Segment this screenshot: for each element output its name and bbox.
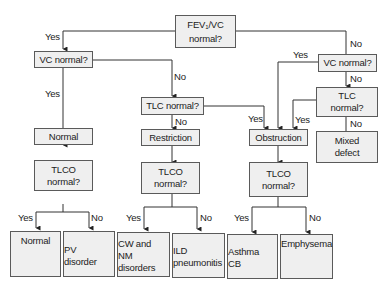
obstruction-node: Obstruction [249,129,308,146]
edge-label-yes: Yes [234,213,249,223]
edge-label-yes: Yes [248,114,263,124]
edge-label-no: No [175,117,187,127]
tlc-normal-right-decision: TLC normal? [316,87,378,117]
outcome-cw-nm-disorders: CW and NM disorders [117,232,170,277]
edge-label-no: No [91,213,103,223]
edge-label-no: No [200,213,212,223]
outcome-pv-disorder: PV disorder [63,231,115,277]
outcome-normal: Normal [10,231,61,277]
fev1-vc-decision: FEV1/VC normal? [175,15,236,48]
vc-normal-right-decision: VC normal? [318,54,377,72]
vc-normal-left-decision: VC normal? [34,51,93,68]
edge-label-no: No [350,39,362,49]
edge-label-yes: Yes [45,89,60,99]
tlc-normal-mid-decision: TLC normal? [141,97,204,115]
edge-label-no: No [309,213,321,223]
restriction-node: Restriction [141,129,200,146]
edge-label-no: No [174,72,186,82]
tlco-normal-decision-2: TLCO normal? [141,162,200,194]
tlco-normal-decision-1: TLCO normal? [34,160,93,191]
edge-label-yes: Yes [295,115,310,125]
edge-label-yes: Yes [18,213,33,223]
edge-label-no: No [350,119,362,129]
edge-label-no: No [350,74,362,84]
edge-label-yes: Yes [126,213,141,223]
normal-node: Normal [34,128,93,145]
outcome-emphysema: Emphysema [280,234,333,279]
edge-label-yes: Yes [293,50,308,60]
edge-label-yes: Yes [45,32,60,42]
mixed-defect-node: Mixed defect [316,131,378,163]
outcome-ild-pneumonitis: ILD pneumonitis [172,233,225,278]
tlco-normal-decision-3: TLCO normal? [249,162,308,197]
outcome-asthma-cb: Asthma CB [227,234,278,279]
